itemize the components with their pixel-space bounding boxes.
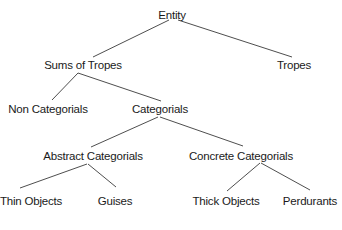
- node-tropes: Tropes: [277, 59, 311, 72]
- node-perdurants: Perdurants: [283, 195, 337, 208]
- node-categorials: Categorials: [132, 103, 188, 116]
- node-thin-objects: Thin Objects: [0, 195, 62, 208]
- node-entity: Entity: [158, 9, 186, 22]
- edge-entity-sums-of-tropes: [93, 20, 169, 57]
- node-sums-of-tropes: Sums of Tropes: [44, 59, 122, 72]
- node-thick-objects: Thick Objects: [192, 195, 259, 208]
- edge-sums-of-tropes-categorials: [78, 73, 161, 101]
- node-concrete-categorials: Concrete Categorials: [189, 150, 293, 163]
- edge-entity-tropes: [178, 20, 292, 57]
- edge-abstract-categorials-guises: [88, 164, 116, 187]
- edge-categorials-concrete-categorials: [160, 117, 243, 146]
- edge-concrete-categorials-perdurants: [261, 163, 310, 190]
- edge-sums-of-tropes-non-categorials: [52, 73, 78, 100]
- ontology-tree-diagram: Entity Sums of Tropes Tropes Non Categor…: [0, 0, 342, 230]
- edge-categorials-abstract-categorials: [91, 117, 158, 147]
- node-abstract-categorials: Abstract Categorials: [43, 150, 143, 163]
- edge-concrete-categorials-thick-objects: [227, 163, 260, 191]
- node-non-categorials: Non Categorials: [8, 103, 87, 116]
- edge-abstract-categorials-thin-objects: [20, 164, 87, 188]
- node-guises: Guises: [98, 195, 133, 208]
